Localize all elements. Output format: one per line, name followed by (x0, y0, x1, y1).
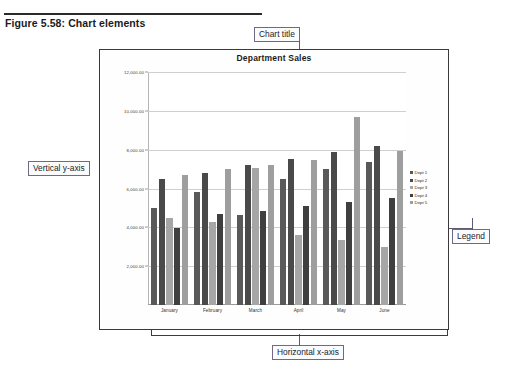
bar[interactable] (366, 162, 372, 305)
annotation-chart-title: Chart title (254, 27, 300, 42)
x-axis-category-label: January (148, 308, 191, 322)
bar[interactable] (151, 208, 157, 305)
plot-area: 2,000.004,000.006,000.008,000.0010,000.0… (148, 72, 406, 305)
legend-item[interactable]: Dept 5 (410, 200, 427, 205)
legend-swatch-icon (410, 179, 413, 182)
bar[interactable] (202, 173, 208, 305)
chart-area[interactable]: Department Sales 2,000.004,000.006,000.0… (99, 49, 449, 330)
legend-swatch-icon (410, 194, 413, 197)
bar[interactable] (397, 151, 403, 305)
bar[interactable] (245, 165, 251, 305)
bar[interactable] (331, 152, 337, 305)
bar[interactable] (311, 160, 317, 305)
bar[interactable] (166, 218, 172, 305)
bar[interactable] (260, 211, 266, 305)
x-axis-labels: JanuaryFebruaryMarchAprilMayJune (148, 308, 406, 322)
x-axis-category-label: June (363, 308, 406, 322)
bar[interactable] (159, 179, 165, 305)
legend-item[interactable]: Dept 4 (410, 193, 427, 198)
legend-item[interactable]: Dept 1 (410, 170, 427, 175)
bar[interactable] (389, 198, 395, 305)
bar[interactable] (280, 179, 286, 305)
y-axis-tick-label: 12,000.00 (124, 70, 144, 75)
bar[interactable] (268, 165, 274, 305)
annotation-legend-leader (472, 218, 473, 230)
bar[interactable] (381, 247, 387, 305)
x-axis-category-label: May (320, 308, 363, 322)
figure-caption: Figure 5.58: Chart elements (5, 17, 145, 29)
bar[interactable] (288, 159, 294, 305)
bar-group (234, 72, 277, 305)
plot-canvas: 2,000.004,000.006,000.008,000.0010,000.0… (148, 72, 406, 305)
bar[interactable] (174, 228, 180, 305)
legend-item-label: Dept 2 (415, 178, 428, 183)
bar[interactable] (323, 169, 329, 305)
annotation-horizontal-x-axis: Horizontal x-axis (272, 345, 344, 360)
legend-item-label: Dept 1 (415, 170, 428, 175)
bar-group (363, 72, 406, 305)
x-axis-category-label: February (191, 308, 234, 322)
annotation-legend: Legend (452, 229, 490, 244)
legend-item-label: Dept 4 (415, 193, 428, 198)
y-axis-tick-label: 6,000.00 (126, 186, 144, 191)
chart-legend[interactable]: Dept 1Dept 2Dept 3Dept 4Dept 5 (410, 170, 427, 205)
chart-title: Department Sales (100, 53, 448, 63)
bar[interactable] (252, 168, 258, 305)
y-axis-tick-label: 10,000.00 (124, 108, 144, 113)
bar-group (148, 72, 191, 305)
legend-item-label: Dept 5 (415, 200, 428, 205)
bar[interactable] (217, 214, 223, 305)
bar-group (191, 72, 234, 305)
bar[interactable] (374, 146, 380, 305)
bar-groups (148, 72, 406, 305)
y-axis-tick-label: 8,000.00 (126, 147, 144, 152)
x-axis-category-label: March (234, 308, 277, 322)
bar[interactable] (182, 175, 188, 305)
bar[interactable] (346, 202, 352, 305)
bar[interactable] (338, 240, 344, 305)
legend-swatch-icon (410, 201, 413, 204)
bar[interactable] (194, 192, 200, 305)
bar[interactable] (209, 222, 215, 305)
legend-swatch-icon (410, 186, 413, 189)
legend-item[interactable]: Dept 2 (410, 178, 427, 183)
caption-divider (4, 13, 262, 15)
annotation-vertical-y-axis: Vertical y-axis (28, 161, 90, 176)
bar[interactable] (225, 169, 231, 305)
bar[interactable] (303, 206, 309, 305)
legend-item-label: Dept 3 (415, 185, 428, 190)
figure-container: Figure 5.58: Chart elements Chart title … (0, 0, 507, 372)
bar[interactable] (237, 215, 243, 305)
legend-item[interactable]: Dept 3 (410, 185, 427, 190)
y-axis-tick-label: 4,000.00 (126, 225, 144, 230)
y-axis-tick-label: 2,000.00 (126, 264, 144, 269)
bar[interactable] (354, 117, 360, 305)
bar-group (320, 72, 363, 305)
bar[interactable] (295, 235, 301, 305)
x-axis-category-label: April (277, 308, 320, 322)
legend-swatch-icon (410, 171, 413, 174)
bar-group (277, 72, 320, 305)
